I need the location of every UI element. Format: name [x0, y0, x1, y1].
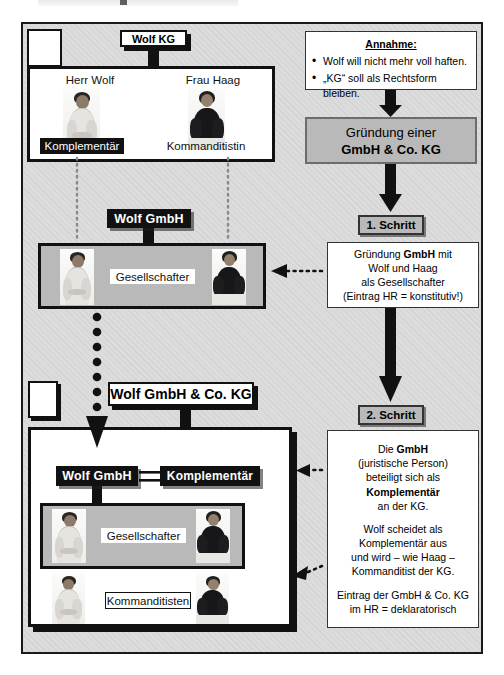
assumption-heading: Annahme:: [312, 37, 470, 51]
step-1-badge: 1. Schritt: [358, 215, 424, 235]
step2-para-2: Wolf scheidet als Komplementär aus und w…: [351, 522, 455, 579]
step2-p1-l2: (juristische Person): [358, 456, 448, 470]
step2-p1-l1: Die GmbH: [358, 442, 448, 456]
photo-gesellschafter-woman: [212, 249, 246, 305]
step2-p1-l4: Komplementär: [358, 485, 448, 499]
step-1-box: Gründung GmbH mit Wolf und Haag als Gese…: [327, 242, 479, 308]
step2-p2-l2: Komplementär aus: [351, 536, 455, 550]
caption-kommanditistin-initial: Kommanditistin: [152, 138, 260, 154]
scan-artifact-strip: [38, 0, 238, 6]
step2-p1-l3: beteiligt sich als: [358, 470, 448, 484]
scan-artifact-mark: [120, 0, 127, 5]
photo-inner-gesellschafter-man: [52, 509, 86, 563]
corner-box-top: [27, 29, 62, 67]
photo-kommanditist-woman: [196, 574, 229, 624]
caption-gesellschafter-inner: Gesellschafter: [101, 528, 186, 543]
inner-komplementaer-label: Komplementär: [160, 466, 260, 486]
connector-gmbhcokg-to-panel: [180, 406, 191, 428]
assumption-item: „KG“ soll als Rechtsform bleiben.: [312, 71, 470, 99]
step1-line-1: Gründung GmbH mit: [354, 247, 452, 261]
step2-p2-l4: Kommanditist der KG.: [351, 564, 455, 578]
corner-box-bottom: [28, 381, 58, 418]
step2-p1-l5: an der KG.: [358, 499, 448, 513]
step2-para-3: Eintrag der GmbH & Co. KG im HR = deklar…: [337, 588, 469, 616]
wolf-kg-label: Wolf KG: [120, 30, 187, 47]
step-2-box: Die GmbH (juristische Person) beteiligt …: [327, 430, 479, 628]
goal-box: Gründung einer GmbH & Co. KG: [305, 117, 477, 164]
wolf-gmbh-label: Wolf GmbH: [107, 209, 191, 228]
step2-p3-l1: Eintrag der GmbH & Co. KG: [337, 588, 469, 602]
photo-gesellschafter-man: [60, 249, 94, 305]
caption-gesellschafter-middle: Gesellschafter: [110, 269, 195, 284]
step1-line-4: (Eintrag HR = konstitutiv!): [343, 289, 463, 303]
herr-wolf-name: Herr Wolf: [45, 72, 135, 88]
frau-haag-name: Frau Haag: [168, 72, 258, 88]
goal-line-2: GmbH & Co. KG: [341, 142, 441, 157]
step-2-badge: 2. Schritt: [358, 405, 424, 425]
step2-p3-l2: im HR = deklaratorisch: [337, 602, 469, 616]
goal-line-1: Gründung einer: [346, 125, 436, 140]
caption-komplementaer-initial: Komplementär: [40, 138, 124, 154]
photo-inner-gesellschafter-woman: [196, 509, 230, 563]
caption-kommanditisten: Kommanditisten: [105, 592, 191, 609]
inner-wolf-gmbh-label: Wolf GmbH: [56, 466, 138, 486]
assumption-item: Wolf will nicht mehr voll haften.: [312, 54, 470, 68]
step1-line-2: Wolf und Haag: [368, 261, 437, 275]
wolf-kg-text: Wolf KG: [132, 33, 175, 45]
photo-kommanditist-man: [52, 574, 85, 624]
step2-p2-l1: Wolf scheidet als: [351, 522, 455, 536]
assumption-list: Wolf will nicht mehr voll haften. „KG“ s…: [312, 54, 470, 100]
step2-p2-l3: und wird – wie Haag –: [351, 550, 455, 564]
step1-line-3: als Gesellschafter: [361, 275, 444, 289]
assumption-box: Annahme: Wolf will nicht mehr voll hafte…: [305, 31, 477, 90]
wolf-gmbh-co-kg-label: Wolf GmbH & Co. KG: [108, 382, 254, 406]
step2-para-1: Die GmbH (juristische Person) beteiligt …: [358, 442, 448, 513]
